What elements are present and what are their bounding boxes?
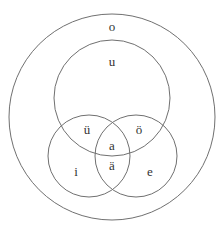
venn-diagram: o u ü ö a ä i e [0,0,221,230]
label-u: u [109,54,116,69]
label-i: i [74,164,78,179]
label-e: e [147,164,153,179]
label-o: o [109,19,116,34]
label-a: a [109,138,115,153]
label-a-umlaut: ä [109,158,115,173]
label-o-umlaut: ö [136,122,143,137]
label-u-umlaut: ü [84,122,91,137]
